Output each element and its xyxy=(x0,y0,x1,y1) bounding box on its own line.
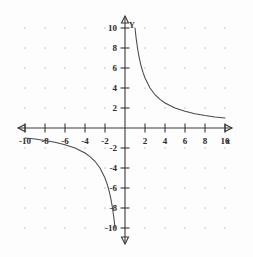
x-tick-label: 6 xyxy=(183,136,188,146)
grid-dot xyxy=(64,27,66,29)
grid-dot xyxy=(64,227,66,229)
grid-dot xyxy=(144,227,146,229)
grid-dot xyxy=(224,187,226,189)
grid-dot xyxy=(204,27,206,29)
grid-dot xyxy=(24,47,26,49)
grid-dot xyxy=(204,227,206,229)
grid-dot xyxy=(64,207,66,209)
grid-dot xyxy=(184,167,186,169)
x-tick-label: -4 xyxy=(81,136,89,146)
grid-dot xyxy=(204,87,206,89)
grid-dot xyxy=(44,167,46,169)
grid-dot xyxy=(144,207,146,209)
axes-group xyxy=(18,16,232,244)
grid-dot xyxy=(24,207,26,209)
grid-dot xyxy=(164,87,166,89)
grid-dot xyxy=(144,107,146,109)
grid-dot xyxy=(204,167,206,169)
grid-dot xyxy=(64,187,66,189)
y-tick-label: 2 xyxy=(113,103,118,113)
grid-dot xyxy=(164,107,166,109)
grid-dot xyxy=(84,187,86,189)
grid-dot xyxy=(64,47,66,49)
grid-dot xyxy=(224,87,226,89)
y-tick-label: 8 xyxy=(113,43,118,53)
grid-dot xyxy=(44,67,46,69)
grid-dot xyxy=(24,67,26,69)
grid-dot xyxy=(184,227,186,229)
grid-dot xyxy=(184,67,186,69)
grid-dot xyxy=(224,27,226,29)
grid-dot xyxy=(144,87,146,89)
grid-dot xyxy=(44,187,46,189)
grid-dot xyxy=(64,67,66,69)
grid-dot xyxy=(144,167,146,169)
grid-dot xyxy=(44,227,46,229)
grid-dot xyxy=(24,187,26,189)
coordinate-graph: -10-8-6-4-2246810 -10-8-6-4-2246810 x Y xyxy=(0,0,253,257)
grid-dot xyxy=(24,147,26,149)
x-tick-label: 8 xyxy=(203,136,208,146)
grid-dot xyxy=(184,87,186,89)
grid-dot xyxy=(104,107,106,109)
grid-dot xyxy=(44,47,46,49)
grid-dot xyxy=(104,27,106,29)
grid-dot xyxy=(224,167,226,169)
grid-dot xyxy=(164,67,166,69)
y-tick-label: -6 xyxy=(110,183,118,193)
x-tick-label: 4 xyxy=(163,136,168,146)
grid-dot xyxy=(24,227,26,229)
grid-dot xyxy=(184,47,186,49)
grid-dot xyxy=(164,47,166,49)
grid-dot xyxy=(24,87,26,89)
grid-dot xyxy=(164,167,166,169)
grid-dot xyxy=(104,187,106,189)
grid-dot xyxy=(144,187,146,189)
grid-dot xyxy=(44,87,46,89)
grid-dot xyxy=(144,147,146,149)
grid-dot xyxy=(104,207,106,209)
grid-dot xyxy=(84,27,86,29)
grid-dot xyxy=(64,167,66,169)
grid-dot xyxy=(24,107,26,109)
grid-dot xyxy=(84,207,86,209)
grid-dot xyxy=(204,47,206,49)
grid-dot xyxy=(104,87,106,89)
grid-dot xyxy=(204,207,206,209)
grid-dot xyxy=(204,147,206,149)
grid-dot xyxy=(84,147,86,149)
grid-dot xyxy=(224,227,226,229)
grid-dot xyxy=(144,27,146,29)
grid-dot xyxy=(104,167,106,169)
grid-dot xyxy=(164,147,166,149)
y-tick-label: 4 xyxy=(113,83,118,93)
y-tick-label: -2 xyxy=(110,143,118,153)
grid-dot xyxy=(64,147,66,149)
grid-dot xyxy=(84,167,86,169)
grid-dot xyxy=(184,147,186,149)
grid-dot xyxy=(104,67,106,69)
grid-dot xyxy=(204,187,206,189)
grid-dot xyxy=(224,147,226,149)
y-tick-label: -10 xyxy=(105,223,117,233)
grid-dot xyxy=(224,107,226,109)
grid-dot xyxy=(184,187,186,189)
grid-dot xyxy=(84,107,86,109)
grid-dot xyxy=(164,227,166,229)
grid-dot xyxy=(44,207,46,209)
hyperbola-branch-quadrant-3 xyxy=(25,138,115,228)
grid-dot xyxy=(84,47,86,49)
grid-dot xyxy=(44,27,46,29)
grid-dot xyxy=(84,67,86,69)
grid-dot xyxy=(184,27,186,29)
grid-dot xyxy=(24,27,26,29)
grid-dot xyxy=(104,147,106,149)
grid-dot xyxy=(104,47,106,49)
y-axis-label: Y xyxy=(129,21,135,30)
grid-dot xyxy=(144,67,146,69)
x-tick-label: -2 xyxy=(101,136,109,146)
y-tick-label: 10 xyxy=(108,23,118,33)
y-tick-label: -4 xyxy=(110,163,118,173)
grid-dot xyxy=(184,207,186,209)
grid-dot xyxy=(164,207,166,209)
